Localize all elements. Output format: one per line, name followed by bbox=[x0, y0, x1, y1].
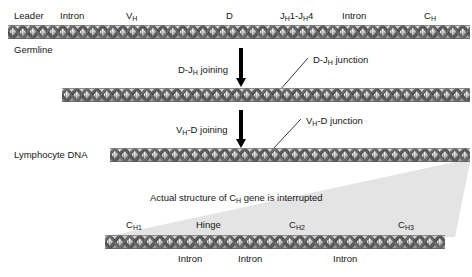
exon-label-ch2: CH2 bbox=[289, 219, 305, 230]
expanded-intron-label-3: Intron bbox=[333, 253, 357, 264]
exon-label-ch1: CH1 bbox=[126, 219, 142, 230]
figure-canvas: Leader Intron VH D JH1-JH4 Intron CH Ger… bbox=[0, 0, 472, 277]
dna-helix-texture bbox=[105, 235, 445, 249]
expansion-caption: Actual structure of CH gene is interrupt… bbox=[150, 192, 322, 203]
dna-bar-ch-expanded bbox=[105, 235, 445, 249]
exon-label-ch3: CH3 bbox=[398, 219, 414, 230]
exon-label-hinge: Hinge bbox=[196, 219, 221, 230]
expanded-intron-label-2: Intron bbox=[238, 253, 262, 264]
expanded-intron-label-1: Intron bbox=[178, 253, 202, 264]
